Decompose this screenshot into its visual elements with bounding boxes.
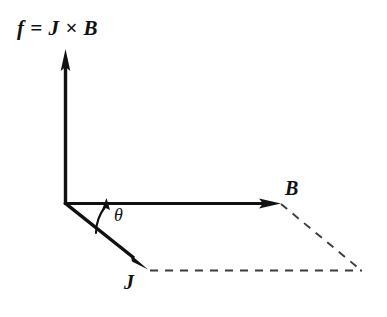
dashed-line-b-to-corner — [281, 204, 362, 271]
j-vector-arrowhead — [126, 255, 148, 270]
diagram-canvas — [0, 0, 387, 317]
vector-diagram-figure: f = J × B B J θ — [0, 0, 387, 317]
j-vector-label: J — [124, 272, 134, 292]
f-vector-group — [61, 49, 71, 203]
j-vector-group — [64, 202, 148, 269]
b-vector-label: B — [285, 178, 298, 198]
theta-angle-label: θ — [114, 206, 123, 224]
j-vector-shaft — [64, 202, 134, 258]
b-vector-group — [64, 198, 281, 208]
f-vector-label: f = J × B — [17, 18, 98, 39]
construction-lines-group — [150, 204, 362, 271]
